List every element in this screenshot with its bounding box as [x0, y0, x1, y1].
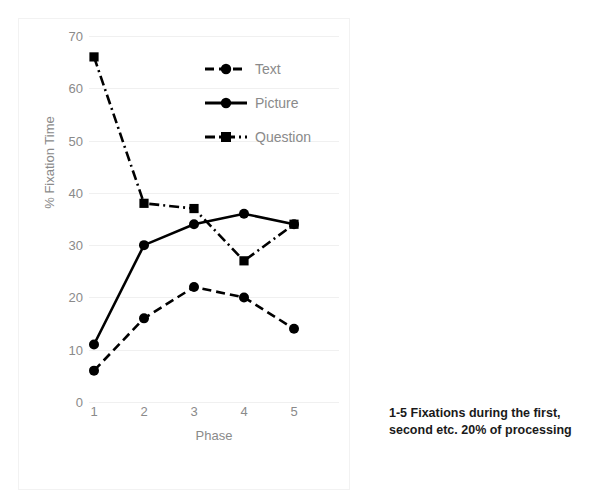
data-point-square [239, 256, 248, 265]
data-point-circle [289, 324, 299, 334]
data-point-circle [139, 240, 149, 250]
y-axis-tick-label: 10 [57, 343, 83, 356]
y-axis-tick-labels: 010203040506070 [55, 36, 83, 402]
legend-label: Question [249, 129, 311, 145]
figure-container: % Fixation Time 010203040506070 12345 Ph… [0, 0, 599, 498]
series-text [89, 282, 299, 376]
y-axis-tick-label: 60 [57, 82, 83, 95]
data-point-circle [89, 366, 99, 376]
gridline [89, 402, 339, 403]
y-axis-tick-label: 40 [57, 186, 83, 199]
data-point-circle [89, 339, 99, 349]
y-axis-tick-label: 20 [57, 291, 83, 304]
x-axis-tick-label: 3 [179, 404, 209, 419]
data-point-circle [239, 209, 249, 219]
x-axis-tick-labels: 12345 [89, 404, 339, 424]
series-line [94, 214, 294, 345]
y-axis-tick-label: 30 [57, 239, 83, 252]
legend-label: Text [249, 61, 281, 77]
series-picture [89, 209, 299, 350]
x-axis-tick-label: 1 [79, 404, 109, 419]
y-axis-tick-label: 50 [57, 134, 83, 147]
caption-line-1: 1-5 Fixations during the first, [389, 405, 589, 422]
data-point-square [139, 199, 148, 208]
data-point-square [289, 220, 298, 229]
legend-label: Picture [249, 95, 299, 111]
legend-marker-icon [203, 95, 249, 111]
caption-line-2: second etc. 20% of processing [389, 422, 589, 439]
data-point-circle [239, 292, 249, 302]
x-axis-tick-label: 4 [229, 404, 259, 419]
x-axis-tick-label: 5 [279, 404, 309, 419]
legend-item-picture[interactable]: Picture [203, 86, 333, 120]
data-point-circle [189, 282, 199, 292]
legend-marker-icon [203, 129, 249, 145]
x-axis-tick-label: 2 [129, 404, 159, 419]
x-axis-title: Phase [89, 428, 339, 443]
data-point-circle [189, 219, 199, 229]
series-line [94, 287, 294, 371]
legend-item-text[interactable]: Text [203, 52, 333, 86]
figure-caption: 1-5 Fixations during the first, second e… [389, 405, 589, 439]
data-point-circle [139, 313, 149, 323]
legend-item-question[interactable]: Question [203, 120, 333, 154]
legend-marker-icon [203, 61, 249, 77]
data-point-square [89, 52, 98, 61]
data-point-square [189, 204, 198, 213]
chart-legend: TextPictureQuestion [203, 52, 333, 154]
y-axis-tick-label: 70 [57, 30, 83, 43]
